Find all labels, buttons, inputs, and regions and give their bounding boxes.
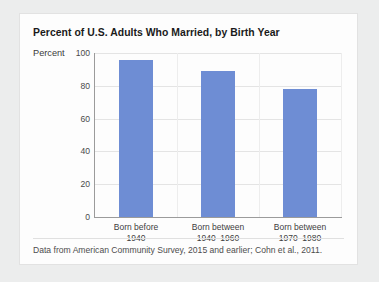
plot-region: Percent 100 80 60 40 20 0: [33, 48, 346, 231]
y-tick-label-60: 60: [80, 114, 90, 124]
y-tick-label-40: 40: [80, 146, 90, 156]
y-axis-title: Percent: [33, 48, 65, 58]
x-tick-label-1: Born between 1940–1960: [192, 222, 244, 243]
y-tick-label-100: 100: [76, 48, 90, 58]
y-tick-label-80: 80: [80, 81, 90, 91]
bar-born-before-1940: [119, 60, 153, 217]
x-tick-label-0: Born before 1940: [114, 222, 158, 243]
x-tick-label-2: Born between 1970–1980: [274, 222, 326, 243]
figure-card: Percent of U.S. Adults Who Married, by B…: [19, 13, 358, 265]
category-separator-2: [259, 53, 260, 217]
chart-footnote: Data from American Community Survey, 201…: [33, 245, 322, 255]
gridline-0: 0: [95, 217, 342, 218]
gridline-100: 100: [95, 53, 342, 54]
footnote-divider: [33, 238, 344, 239]
bar-born-between-1940-1960: [201, 71, 235, 217]
bar-born-between-1970-1980: [283, 89, 317, 217]
x-tick-label-1-line1: Born between: [192, 222, 244, 233]
x-tick-label-2-line1: Born between: [274, 222, 326, 233]
y-tick-label-0: 0: [85, 212, 90, 222]
x-tick-label-0-line1: Born before: [114, 222, 158, 233]
chart-title: Percent of U.S. Adults Who Married, by B…: [33, 27, 280, 38]
category-separator-3: [341, 53, 342, 217]
y-tick-label-20: 20: [80, 179, 90, 189]
category-separator-1: [177, 53, 178, 217]
plot-area: 100 80 60 40 20 0: [94, 53, 342, 218]
